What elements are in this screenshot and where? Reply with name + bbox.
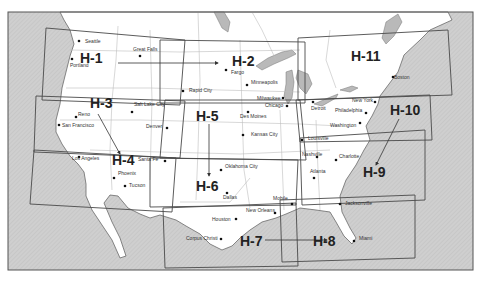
city-label: Charlotte [339, 153, 360, 159]
region-label-h-10: H-10 [390, 102, 421, 118]
city-marker-icon [164, 160, 167, 163]
coverage-map: SeattlePortlandGreat FallsFargoMinneapol… [0, 0, 481, 283]
city-label: Fargo [231, 69, 244, 75]
city-label: Phoenix [118, 170, 137, 176]
city-label: Nashville [302, 151, 323, 157]
city-label: Boston [394, 74, 410, 80]
city-marker-icon [242, 134, 245, 137]
city-marker-icon [301, 139, 304, 142]
city-marker-icon [124, 185, 127, 188]
city-label: Rapid City [189, 87, 213, 93]
region-label-h-7: H-7 [240, 233, 263, 249]
city-marker-icon [225, 69, 228, 72]
city-label: Milwaukee [257, 95, 281, 101]
city-label: Dallas [223, 194, 237, 200]
city-label: Detroit [311, 105, 326, 111]
city-label: Minneapolis [251, 79, 278, 85]
city-label: Denver [146, 123, 162, 129]
city-marker-icon [286, 105, 289, 108]
city-marker-icon [182, 90, 185, 93]
city-marker-icon [139, 55, 142, 58]
city-label: Louisville [308, 135, 329, 141]
city-marker-icon [282, 97, 285, 100]
city-label: Reno [78, 111, 90, 117]
city-marker-icon [353, 240, 356, 243]
city-label: Salt Lake City [134, 101, 165, 107]
city-label: Atlanta [310, 168, 326, 174]
city-marker-icon [166, 127, 169, 130]
city-label: Corpus Christi [186, 235, 218, 241]
city-marker-icon [312, 101, 315, 104]
city-marker-icon [58, 124, 61, 127]
city-label: Great Falls [133, 46, 158, 52]
city-label: San Francisco [62, 122, 94, 128]
city-marker-icon [220, 238, 223, 241]
city-marker-icon [78, 40, 81, 43]
region-label-h-8: H-8 [313, 233, 336, 249]
region-label-h-11: H-11 [351, 48, 381, 64]
region-label-h-2: H-2 [232, 53, 255, 69]
region-label-h-9: H-9 [363, 164, 386, 180]
city-label: Tucson [129, 182, 145, 188]
city-label: Philadelphia [335, 107, 362, 113]
city-label: Santa Fe [138, 156, 159, 162]
city-marker-icon [339, 203, 342, 206]
city-label: Chicago [265, 102, 284, 108]
city-marker-icon [291, 203, 294, 206]
city-label: Des Moines [240, 113, 267, 119]
city-label: Seattle [85, 38, 101, 44]
city-marker-icon [313, 177, 316, 180]
city-marker-icon [71, 58, 74, 61]
city-marker-icon [113, 177, 116, 180]
city-label: Houston [212, 216, 231, 222]
city-label: New Orleans [246, 207, 275, 213]
region-label-h-3: H-3 [90, 95, 113, 111]
city-marker-icon [246, 84, 249, 87]
city-marker-icon [220, 169, 223, 172]
region-label-h-1: H-1 [80, 50, 103, 66]
city-label: Los Angeles [72, 155, 100, 161]
city-label: Mobile [273, 195, 288, 201]
city-label: New York [352, 97, 374, 103]
city-label: Washington [330, 122, 356, 128]
city-label: Oklahoma City [225, 163, 258, 169]
region-label-h-5: H-5 [196, 108, 219, 124]
city-label: Kansas City [251, 131, 278, 137]
region-label-h-4: H-4 [112, 152, 135, 168]
city-label: Miami [359, 235, 372, 241]
city-label: Jacksonville [345, 200, 372, 206]
region-label-h-6: H-6 [196, 178, 219, 194]
city-marker-icon [335, 159, 338, 162]
city-marker-icon [75, 116, 78, 119]
city-marker-icon [374, 101, 377, 104]
city-marker-icon [365, 112, 368, 115]
city-marker-icon [359, 122, 362, 125]
city-marker-icon [235, 218, 238, 221]
city-marker-icon [131, 111, 134, 114]
